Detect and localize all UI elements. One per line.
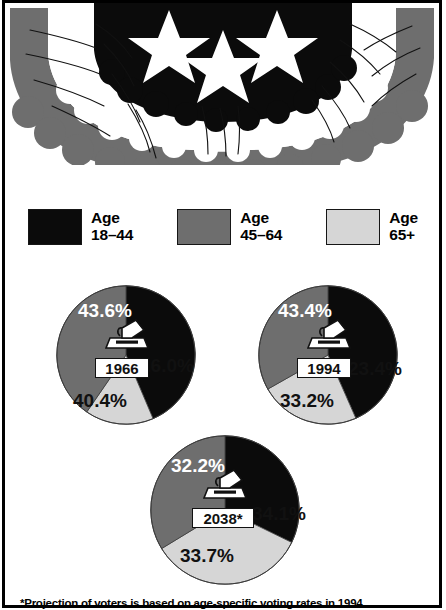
swatch-age-65-plus bbox=[326, 209, 380, 245]
bunting-decoration bbox=[0, 0, 446, 165]
swatch-age-18-44 bbox=[28, 209, 82, 245]
pie-2038-year-tag: 2038* bbox=[192, 508, 254, 528]
infographic-page: Age 18–44 Age 45–64 Age 65+ 43.6% 16.0% … bbox=[0, 0, 446, 610]
legend-item-age-45-64: Age 45–64 bbox=[177, 209, 282, 245]
legend-label-line1: Age bbox=[389, 209, 418, 226]
bunting-svg bbox=[0, 0, 446, 165]
pie-1966-year-tag: 1966 bbox=[95, 358, 149, 378]
legend-label-line2: 65+ bbox=[389, 227, 418, 244]
legend-item-age-65-plus: Age 65+ bbox=[326, 209, 418, 245]
pie-1994-label-age-45-64: 33.2% bbox=[280, 390, 334, 412]
legend-label-age-45-64: Age 45–64 bbox=[240, 210, 282, 243]
legend-label-line2: 18–44 bbox=[91, 227, 133, 244]
legend: Age 18–44 Age 45–64 Age 65+ bbox=[0, 209, 446, 259]
legend-label-line1: Age bbox=[91, 209, 120, 226]
swatch-age-45-64 bbox=[177, 209, 231, 245]
legend-label-age-65-plus: Age 65+ bbox=[389, 210, 418, 243]
legend-label-line2: 45–64 bbox=[240, 227, 282, 244]
footnote: *Projection of voters is based on age-sp… bbox=[20, 597, 432, 609]
legend-item-age-18-44: Age 18–44 bbox=[28, 209, 133, 245]
legend-label-age-18-44: Age 18–44 bbox=[91, 210, 133, 243]
pie-2038-label-age-45-64: 33.7% bbox=[180, 545, 234, 567]
pie-1966-label-age-45-64: 40.4% bbox=[73, 390, 127, 412]
legend-label-line1: Age bbox=[240, 209, 269, 226]
pie-2038-label-age-65-plus: 34.1% bbox=[252, 503, 306, 525]
pie-1994-year-tag: 1994 bbox=[297, 358, 351, 378]
